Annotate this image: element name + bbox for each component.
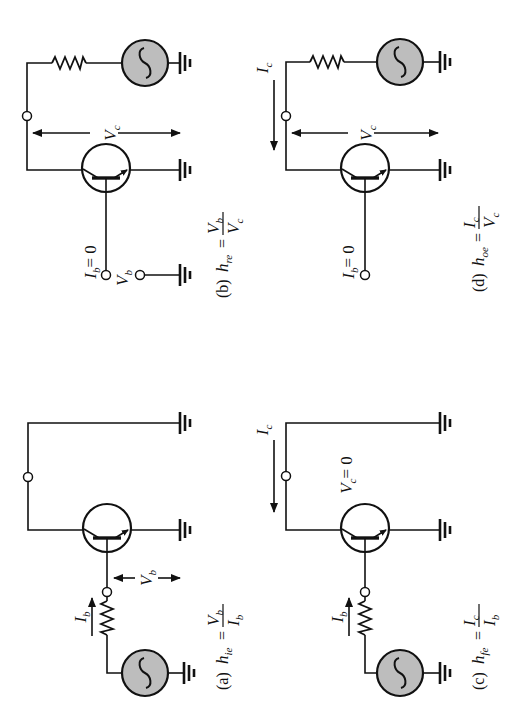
ground-icon — [180, 412, 190, 434]
resistor-icon — [359, 601, 371, 635]
svg-text:Vc: Vc — [224, 219, 245, 234]
terminal-icon — [136, 271, 145, 280]
svg-text:Ic: Ic — [460, 217, 481, 229]
transistor-icon — [83, 504, 131, 552]
svg-text:hie: hie — [213, 647, 234, 664]
terminal-icon — [282, 112, 291, 121]
panel-a: Ib Vb (a) hie = Vb Ib — [24, 412, 246, 696]
panel-c: Ic Vc= 0 Ib (c) hfe = Ic Ib — [253, 412, 501, 696]
ground-icon — [440, 159, 450, 181]
ground-icon — [184, 662, 194, 684]
svg-text:=: = — [214, 239, 231, 248]
ground-icon — [180, 519, 190, 541]
svg-text:(c): (c) — [470, 672, 488, 690]
resistor-icon — [101, 601, 113, 635]
svg-text:hfe: hfe — [469, 647, 490, 664]
transistor-icon — [82, 144, 130, 192]
resistor-icon — [52, 57, 86, 69]
terminal-icon — [24, 473, 33, 482]
ground-icon — [440, 519, 450, 541]
terminal-icon — [361, 271, 370, 280]
ground-icon — [180, 52, 190, 74]
terminal-icon — [282, 472, 291, 481]
ac-source-icon — [122, 40, 168, 86]
svg-text:(b): (b) — [214, 279, 232, 298]
vc-label: Vc — [357, 125, 378, 140]
svg-text:=: = — [470, 233, 487, 242]
transistor-icon — [341, 504, 389, 552]
ib-label: Ib — [71, 611, 92, 624]
ground-icon — [440, 412, 450, 434]
resistor-icon — [310, 56, 344, 68]
svg-text:=: = — [470, 631, 487, 640]
ground-icon — [180, 159, 190, 181]
caption-c: (c) hfe = Ic Ib — [460, 604, 501, 690]
caption-d: (d) hoe = Ic Vc — [460, 206, 501, 292]
svg-text:(d): (d) — [470, 273, 488, 292]
svg-text:(a): (a) — [214, 672, 232, 690]
ac-source-icon — [377, 650, 423, 696]
svg-text:Vb: Vb — [204, 610, 225, 626]
vc-zero-label: Vc= 0 — [337, 456, 358, 494]
transistor-icon — [341, 144, 389, 192]
ground-icon — [180, 264, 190, 286]
ic-label: Ic — [253, 63, 274, 75]
svg-text:=: = — [214, 631, 231, 640]
caption-a: (a) hie = Vb Ib — [204, 604, 245, 690]
ib-label: Ib — [328, 611, 349, 624]
vc-label: Vc — [101, 125, 122, 140]
panel-d: Ic Vc Ib= 0 (d) hoe = Ic Vc — [253, 39, 501, 292]
terminal-icon — [361, 588, 370, 597]
ib-zero-label: Ib= 0 — [339, 245, 360, 280]
svg-text:hre: hre — [213, 255, 234, 272]
ac-source-icon — [122, 650, 168, 696]
terminal-icon — [23, 112, 32, 121]
svg-text:Ib: Ib — [480, 614, 501, 627]
svg-text:Vc: Vc — [480, 213, 501, 228]
svg-text:Vb: Vb — [204, 218, 225, 234]
terminal-icon — [102, 271, 111, 280]
svg-text:Ib: Ib — [224, 614, 245, 627]
svg-text:hoe: hoe — [469, 247, 490, 266]
ground-icon — [440, 51, 450, 73]
vb-label: Vb — [113, 270, 134, 286]
vb-label: Vb — [137, 570, 158, 586]
ground-icon — [440, 662, 450, 684]
h-parameter-diagram: Vc Vb Ib= 0 (b) hre = Vb Vc — [0, 0, 513, 710]
panel-b: Vc Vb Ib= 0 (b) hre = Vb Vc — [23, 40, 246, 298]
svg-text:Ic: Ic — [460, 615, 481, 627]
ib-zero-label: Ib= 0 — [81, 245, 102, 280]
caption-b: (b) hre = Vb Vc — [204, 212, 245, 298]
ac-source-icon — [377, 39, 423, 85]
terminal-icon — [103, 588, 112, 597]
ic-label: Ic — [253, 425, 274, 437]
